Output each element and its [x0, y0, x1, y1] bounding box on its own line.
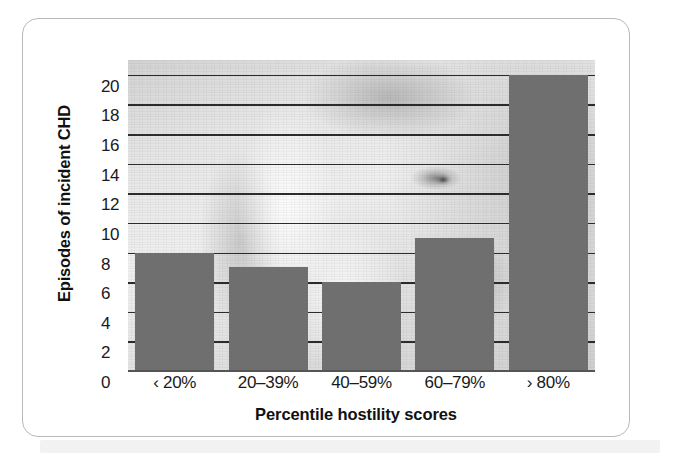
bar-0	[135, 253, 214, 371]
y-tick-label-8: 8	[101, 255, 125, 275]
y-tick-label-2: 2	[101, 343, 125, 363]
y-tick-label-10: 10	[101, 225, 125, 245]
x-tick-label-4: › 80%	[488, 373, 608, 393]
card-shadow-band	[40, 440, 660, 453]
y-tick-label-0: 0	[101, 373, 110, 393]
x-axis-title: Percentile hostility scores	[106, 405, 606, 424]
bar-1	[229, 267, 308, 371]
bar-4	[509, 75, 588, 371]
y-tick-label-14: 14	[101, 166, 125, 186]
bar-3	[415, 238, 494, 371]
bar-2	[322, 282, 401, 371]
x-axis-baseline	[128, 370, 595, 372]
plot-area	[128, 60, 595, 371]
y-tick-label-4: 4	[101, 314, 125, 334]
y-tick-label-20: 20	[101, 77, 125, 97]
y-axis-title: Episodes of incident CHD	[55, 74, 74, 334]
y-tick-label-18: 18	[101, 106, 125, 126]
y-tick-label-12: 12	[101, 195, 125, 215]
y-tick-label-16: 16	[101, 136, 125, 156]
figure-card: Episodes of incident CHD Percentile host…	[22, 18, 630, 437]
y-tick-label-6: 6	[101, 284, 125, 304]
